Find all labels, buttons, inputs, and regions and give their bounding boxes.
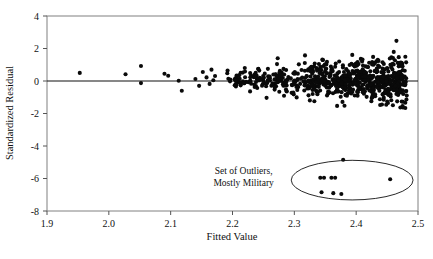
data-point [392,72,396,76]
data-point [368,69,372,73]
data-point [389,98,393,102]
data-point [225,71,229,75]
data-point [323,69,327,73]
data-point [262,76,266,80]
data-point [401,105,405,109]
data-point [373,94,377,98]
data-point [234,82,238,86]
outlier-annotation-label: Set of Outliers,Mostly Military [213,166,274,188]
data-point [296,72,300,76]
data-point [303,61,307,65]
data-point [343,78,347,82]
data-point [347,72,351,76]
data-point [320,57,324,61]
data-point [308,98,312,102]
data-point [371,75,375,79]
data-point [308,74,312,78]
data-point [357,85,361,89]
data-point [393,84,397,88]
data-point [306,79,310,83]
data-point [319,67,323,71]
data-point [390,68,394,72]
data-point [348,82,352,86]
data-point [260,84,264,88]
y-tick-label: -6 [31,173,39,184]
data-point [397,55,401,59]
data-point [404,60,408,64]
data-point [139,81,143,85]
data-point [361,83,365,87]
y-axis-ticks [43,16,47,211]
data-point [394,92,398,96]
x-tick-label: 1.9 [41,218,54,229]
data-point [333,176,337,180]
data-point [366,65,370,69]
data-point [257,78,261,82]
data-point [314,81,318,85]
data-point [353,82,357,86]
data-point [243,75,247,79]
data-point [180,89,184,93]
outlier-annotation-line: Mostly Military [213,178,274,188]
data-point [322,75,326,79]
data-point [284,80,288,84]
data-point [197,84,201,88]
data-point [384,79,388,83]
data-point [359,57,363,61]
data-point [295,95,299,99]
data-point [162,72,166,76]
data-point [311,92,315,96]
y-tick-label: 0 [34,76,39,87]
scatter-points-main [213,39,409,110]
data-point [139,64,143,68]
data-point [370,62,374,66]
data-point [399,76,403,80]
data-point [395,76,399,80]
scatter-plot-figure: 1.92.02.12.22.32.42.5 420-2-4-6-8 Set of… [0,0,433,259]
data-point [302,88,306,92]
data-point [204,75,208,79]
y-axis-tick-labels: 420-2-4-6-8 [31,11,39,217]
data-point [284,88,288,92]
data-point [315,92,319,96]
data-point [363,74,367,78]
data-point [332,79,336,83]
x-tick-label: 2.2 [226,218,239,229]
data-point [381,60,385,64]
data-point [336,89,340,93]
data-point [369,82,373,86]
y-tick-label: -2 [31,108,39,119]
data-point [318,176,322,180]
data-point [350,53,354,57]
data-point [361,90,365,94]
data-point [228,79,232,83]
data-point [392,50,396,54]
data-point [268,75,272,79]
data-point [309,65,313,69]
data-point [391,103,395,107]
data-point [393,58,397,62]
data-point [379,70,383,74]
data-point [404,89,408,93]
x-tick-label: 2.0 [103,218,116,229]
data-point [341,66,345,70]
data-point [319,190,323,194]
data-point [388,57,392,61]
data-point [391,62,395,66]
plot-canvas: 1.92.02.12.22.32.42.5 420-2-4-6-8 Set of… [0,0,433,259]
data-point [123,72,127,76]
data-point [403,69,407,73]
data-point [377,65,381,69]
data-point [242,81,246,85]
data-point [350,69,354,73]
data-point [348,63,352,67]
data-point [213,74,217,78]
data-point [78,71,82,75]
data-point [337,78,341,82]
data-point [339,192,343,196]
data-point [303,53,307,57]
data-point [302,79,306,83]
data-point [392,88,396,92]
outlier-ellipse-shape [291,160,413,200]
data-point [265,96,269,100]
